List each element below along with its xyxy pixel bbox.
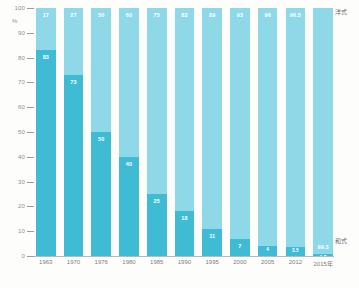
x-axis-tick-label: 2012 [286,259,306,268]
bar-segment-japanese[interactable]: 25 [147,194,167,256]
stacked-bar-chart: 1009080706050403020100 % 178327735050604… [0,0,359,288]
bar-column[interactable]: 8911 [202,8,222,256]
x-axis-tick-label: 1995 [202,259,222,268]
bar-segment-japanese[interactable]: 18 [175,211,195,256]
bar-column[interactable]: 964 [258,8,278,256]
bar-segment-label-japanese: 7 [230,243,250,249]
bar-segment-western[interactable]: 82 [175,8,195,211]
y-axis-tick: 80 [11,53,34,63]
bar-segment-label-western: 17 [36,12,56,18]
bar-segment-japanese[interactable]: 7 [230,239,250,256]
y-axis-tick-mark [27,206,34,207]
x-axis-tick-label: 1980 [119,259,139,268]
bar-segment-western[interactable]: 60 [119,8,139,157]
bar-segment-label-japanese: 50 [91,136,111,142]
y-axis-tick-label: 80 [11,53,25,63]
y-axis-tick-label: 90 [11,28,25,38]
x-axis-tick-label: 1976 [91,259,111,268]
y-axis-tick: 10 [11,226,34,236]
bar-segment-label-western: 50 [91,12,111,18]
bar-segment-japanese[interactable]: 3.5 [286,247,306,256]
x-axis-tick-label: 1970 [64,259,84,268]
bar-segment-label-western: 93 [230,12,250,18]
bar-segment-japanese[interactable]: 50 [91,132,111,256]
bar-segment-western[interactable]: 96 [258,8,278,246]
x-axis-tick-label: 1985 [147,259,167,268]
y-axis-tick: 70 [11,77,34,87]
y-axis-tick: 30 [11,177,34,187]
plot-area: 178327735050604075258218891193796496.53.… [36,8,333,256]
y-axis-tick-mark [27,58,34,59]
bar-column[interactable]: 99.30.7 [313,8,333,256]
bar-segment-japanese[interactable]: 83 [36,50,56,256]
bar-column[interactable]: 8218 [175,8,195,256]
bar-segment-western[interactable]: 50 [91,8,111,132]
bar-segment-label-western: 60 [119,12,139,18]
bar-segment-western[interactable]: 75 [147,8,167,194]
y-axis-tick-mark [27,157,34,158]
y-axis-tick-mark [27,231,34,232]
bar-segment-western[interactable]: 93 [230,8,250,239]
y-axis-tick-label: 70 [11,77,25,87]
bar-column[interactable]: 6040 [119,8,139,256]
legend-label-japanese: 和式 [335,238,357,245]
bar-column[interactable]: 1783 [36,8,56,256]
x-axis-tick-label: 2015年 [313,259,333,268]
y-axis-tick-label: 0 [11,251,25,261]
y-axis-tick: 90 [11,28,34,38]
y-axis-tick-label: 50 [11,127,25,137]
y-axis-tick-label: 40 [11,152,25,162]
y-axis-tick: 50 [11,127,34,137]
x-axis-tick-label: 2005 [258,259,278,268]
bar-segment-western[interactable]: 17 [36,8,56,50]
y-axis-tick-label: 100 [11,3,25,13]
bar-segment-label-japanese: 3.5 [286,248,306,253]
legend-label-western: 洋式 [335,9,357,16]
bar-segment-label-western: 96.5 [286,12,306,18]
y-axis-tick-label: 10 [11,226,25,236]
bar-column[interactable]: 96.53.5 [286,8,306,256]
bar-segment-japanese[interactable]: 40 [119,157,139,256]
bar-segment-label-western: 99.3 [313,244,333,250]
bar-segment-japanese[interactable]: 4 [258,246,278,256]
bar-column[interactable]: 937 [230,8,250,256]
bar-segment-label-japanese: 73 [64,79,84,85]
y-axis-tick-mark [27,82,34,83]
bar-column[interactable]: 5050 [91,8,111,256]
bar-segment-label-western: 96 [258,12,278,18]
bar-segment-western[interactable]: 27 [64,8,84,75]
x-axis-tick-label: 1990 [175,259,195,268]
bar-segment-label-western: 82 [175,12,195,18]
bar-segment-label-japanese: 4 [258,247,278,252]
x-axis-line [34,256,334,257]
y-axis-tick: 20 [11,201,34,211]
x-axis-tick-label: 1963 [36,259,56,268]
y-axis-tick-mark [27,8,34,9]
bar-segment-label-japanese: 40 [119,161,139,167]
bar-column[interactable]: 2773 [64,8,84,256]
y-axis: 1009080706050403020100 [0,8,34,256]
bar-segment-japanese[interactable]: 73 [64,75,84,256]
bar-segment-label-japanese: 25 [147,198,167,204]
bar-segment-label-western: 27 [64,12,84,18]
y-axis-unit: % [12,18,17,24]
bar-segment-label-japanese: 18 [175,215,195,221]
bar-segment-western[interactable]: 99.3 [313,8,333,254]
y-axis-tick-mark [27,256,34,257]
y-axis-tick-mark [27,107,34,108]
bar-segment-japanese[interactable]: 11 [202,229,222,256]
bar-segment-western[interactable]: 89 [202,8,222,229]
y-axis-tick-label: 60 [11,102,25,112]
y-axis-tick: 60 [11,102,34,112]
y-axis-tick-mark [27,33,34,34]
y-axis-tick-label: 20 [11,201,25,211]
bar-segment-label-japanese: 11 [202,233,222,239]
bar-segment-label-japanese: 83 [36,54,56,60]
bar-segment-western[interactable]: 96.5 [286,8,306,247]
x-axis-tick-label: 2000 [230,259,250,268]
y-axis-tick: 0 [11,251,34,261]
y-axis-tick-label: 30 [11,177,25,187]
bar-column[interactable]: 7525 [147,8,167,256]
y-axis-tick: 100 [11,3,34,13]
y-axis-tick-mark [27,182,34,183]
